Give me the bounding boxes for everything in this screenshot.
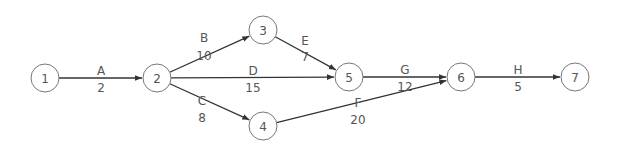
- duration-label-a: 2: [97, 82, 105, 94]
- activity-label-f: F: [355, 97, 362, 109]
- duration-label-g: 12: [397, 81, 412, 93]
- activity-label-d: D: [248, 65, 257, 77]
- activity-label-a: A: [97, 65, 105, 77]
- node-5-label: 5: [345, 72, 353, 84]
- edge-c-arrow: [170, 84, 250, 120]
- duration-label-c: 8: [198, 112, 206, 124]
- node-6-label: 6: [457, 72, 465, 84]
- activity-label-h: H: [513, 64, 522, 76]
- duration-label-f: 20: [350, 114, 365, 126]
- node-4-label: 4: [259, 121, 267, 133]
- network-diagram: A2B10C8D15E7F20G12H51234567: [0, 0, 620, 148]
- duration-label-e: 7: [301, 51, 309, 63]
- activity-label-c: C: [198, 95, 206, 107]
- node-7-label: 7: [571, 72, 579, 84]
- activity-label-g: G: [400, 64, 409, 76]
- duration-label-d: 15: [245, 82, 260, 94]
- duration-label-h: 5: [514, 81, 522, 93]
- diagram-edges: [0, 0, 620, 148]
- activity-label-e: E: [301, 35, 309, 47]
- duration-label-b: 10: [196, 50, 211, 62]
- node-1-label: 1: [41, 73, 49, 85]
- node-2-label: 2: [153, 73, 161, 85]
- activity-label-b: B: [200, 32, 208, 44]
- node-3-label: 3: [259, 25, 267, 37]
